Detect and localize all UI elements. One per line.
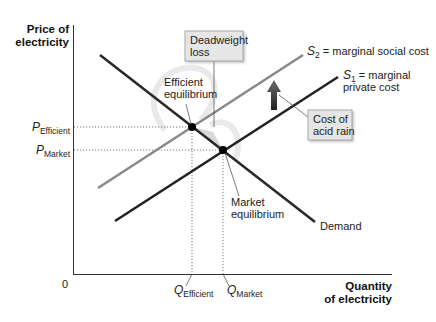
svg-text:Quantity: Quantity [345, 280, 392, 292]
p-efficient-label: PEfficient [32, 120, 71, 136]
svg-text:acid rain: acid rain [313, 125, 355, 137]
efficient-equilibrium-point [188, 123, 196, 131]
up-arrow-icon [267, 80, 281, 110]
y-axis-title: Price of electricity [15, 23, 69, 48]
q-efficient-label: QEfficient [174, 283, 214, 299]
svg-text:private cost: private cost [343, 81, 399, 93]
s1-label: S1 = marginal private cost [343, 68, 410, 93]
svg-text:equilibrium: equilibrium [164, 88, 217, 100]
svg-text:Cost of: Cost of [313, 113, 349, 125]
svg-text:electricity: electricity [15, 36, 69, 48]
x-axis-title: Quantity of electricity [324, 280, 392, 305]
svg-text:equilibrium: equilibrium [231, 208, 284, 220]
market-equilibrium-label: Market equilibrium [231, 196, 284, 220]
market-equilibrium-point [219, 146, 227, 154]
demand-label: Demand [320, 220, 362, 232]
s2-marginal-social-cost-curve [98, 55, 303, 188]
svg-text:loss: loss [190, 46, 210, 58]
s2-label: S2 = marginal social cost [307, 44, 429, 60]
cost-of-acid-rain-callout: Cost of acid rain [308, 110, 355, 140]
demand-curve [100, 55, 315, 222]
p-market-label: PMarket [36, 143, 71, 159]
svg-text:Market: Market [231, 196, 265, 208]
svg-text:of electricity: of electricity [324, 293, 392, 305]
externality-diagram: Deadweight loss Cost of acid rain Effici… [0, 0, 436, 322]
origin-label: 0 [62, 278, 68, 290]
svg-text:Price of: Price of [27, 23, 69, 35]
svg-text:Deadweight: Deadweight [190, 34, 248, 46]
svg-text:Efficient: Efficient [164, 76, 203, 88]
deadweight-loss-callout: Deadweight loss [185, 31, 248, 61]
q-market-label: QMarket [227, 283, 263, 299]
